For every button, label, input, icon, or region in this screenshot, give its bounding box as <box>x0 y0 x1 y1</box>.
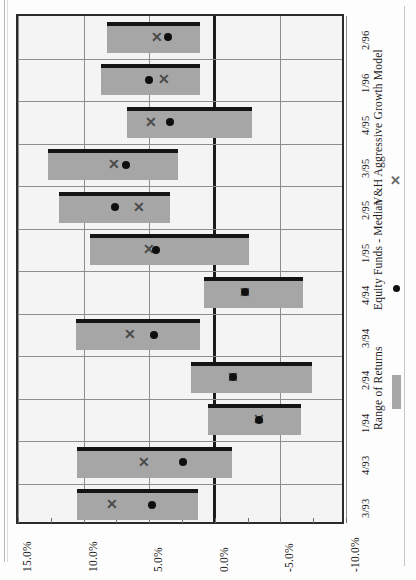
axis-tick <box>51 518 52 523</box>
axis-tick <box>215 518 216 523</box>
model-cross-marker: ✕ <box>106 498 119 511</box>
category-gridline <box>18 484 342 485</box>
page-edge-rule <box>4 0 5 562</box>
category-tick-label: 3/93 <box>360 498 371 517</box>
chart-page: ✕✕✕✕✕✕✕✕✕✕✕✕ 15.0%10.0%5.0%0.0%-5.0%-10.… <box>0 0 416 580</box>
model-cross-marker: ✕ <box>144 116 157 129</box>
legend-divider-rule <box>404 6 405 566</box>
median-dot-marker <box>148 501 156 509</box>
range-bar <box>191 362 312 393</box>
category-tick-label: 1/94 <box>360 413 371 432</box>
category-tick-label: 2/96 <box>360 31 371 50</box>
category-gridline <box>18 186 342 187</box>
page-edge-rule-2 <box>7 0 8 562</box>
median-dot-marker <box>145 76 153 84</box>
value-gridline <box>346 16 347 522</box>
scan-corner-mark <box>6 566 8 576</box>
range-bar <box>204 277 302 308</box>
model-cross-marker: ✕ <box>107 158 120 171</box>
legend-label: Equity Funds - Median <box>372 199 384 310</box>
legend-label: V&H Aggressive Growth Model <box>372 49 384 205</box>
range-bar <box>77 447 232 478</box>
category-tick-label: 1/95 <box>360 243 371 262</box>
model-cross-marker: ✕ <box>123 328 136 341</box>
category-gridline <box>18 314 342 315</box>
range-bar <box>76 319 201 350</box>
category-gridline <box>18 271 342 272</box>
value-axis-tick-label: -5.0% <box>283 543 295 572</box>
category-gridline <box>18 441 342 442</box>
category-tick-label: 4/93 <box>360 456 371 475</box>
legend-median-dot <box>393 285 400 292</box>
model-cross-marker: ✕ <box>151 31 164 44</box>
category-tick-label: 4/95 <box>360 116 371 135</box>
category-gridline <box>18 144 342 145</box>
range-bar <box>77 489 198 520</box>
axis-tick <box>313 518 314 523</box>
value-axis-tick-label: 15.0% <box>21 541 33 572</box>
category-tick-label: 3/95 <box>360 158 371 177</box>
legend-range-swatch <box>392 375 401 409</box>
plot-area: ✕✕✕✕✕✕✕✕✕✕✕✕ <box>16 14 344 524</box>
median-dot-marker <box>122 161 130 169</box>
value-gridline <box>18 16 19 522</box>
category-tick-label: 1/96 <box>360 73 371 92</box>
legend-model-cross: ✕ <box>390 173 401 188</box>
category-gridline <box>18 59 342 60</box>
median-dot-marker <box>164 33 172 41</box>
model-cross-marker: ✕ <box>137 456 150 469</box>
value-axis-tick-label: -10.0% <box>349 537 361 572</box>
category-tick-label: 3/94 <box>360 328 371 347</box>
category-gridline <box>18 399 342 400</box>
value-axis-tick-label: 10.0% <box>87 541 99 572</box>
median-dot-marker <box>152 246 160 254</box>
axis-tick <box>18 518 19 523</box>
model-cross-marker: ✕ <box>157 73 170 86</box>
category-tick-label: 2/94 <box>360 371 371 390</box>
category-tick-label: 2/95 <box>360 201 371 220</box>
value-gridline <box>280 16 281 522</box>
model-cross-marker: ✕ <box>132 201 145 214</box>
range-bar <box>90 234 249 265</box>
axis-tick <box>280 518 281 523</box>
category-gridline <box>18 356 342 357</box>
category-gridline <box>18 229 342 230</box>
value-axis-tick-label: 0.0% <box>218 547 230 572</box>
axis-tick <box>346 518 347 523</box>
value-axis-tick-label: 5.0% <box>152 547 164 572</box>
axis-tick <box>248 518 249 523</box>
category-tick-label: 4/94 <box>360 286 371 305</box>
legend-label: Range of Returns <box>372 346 384 430</box>
category-gridline <box>18 101 342 102</box>
